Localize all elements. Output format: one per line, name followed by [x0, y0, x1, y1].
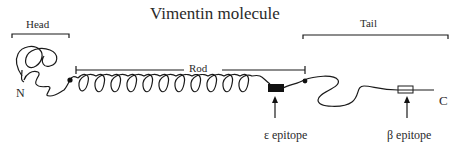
rod-label: Rod: [186, 62, 210, 74]
beta-arrowhead-icon: [404, 96, 410, 103]
tail-label: Tail: [360, 17, 377, 29]
rod-tail-junction-dot: [303, 79, 308, 84]
beta-epitope-label: β epitope: [387, 128, 431, 143]
epsilon-epitope-label: ε epitope: [264, 128, 307, 143]
vimentin-diagram: Vimentin molecule Head Rod Tail N C ε ep…: [0, 0, 462, 147]
n-terminus-label: N: [16, 86, 25, 101]
tail-strand: [304, 76, 434, 106]
rod-coil: [78, 74, 270, 91]
head-strand: [22, 70, 25, 82]
diagram-title: Vimentin molecule: [150, 4, 280, 24]
head-label: Head: [26, 18, 49, 30]
head-rod-junction-dot: [67, 77, 72, 82]
tail-bracket: [303, 35, 448, 39]
head-bracket: [12, 34, 69, 38]
epsilon-epitope-box: [268, 84, 284, 92]
c-terminus-label: C: [439, 93, 448, 109]
rod-tail-link: [283, 80, 304, 88]
epsilon-arrowhead-icon: [272, 96, 278, 103]
